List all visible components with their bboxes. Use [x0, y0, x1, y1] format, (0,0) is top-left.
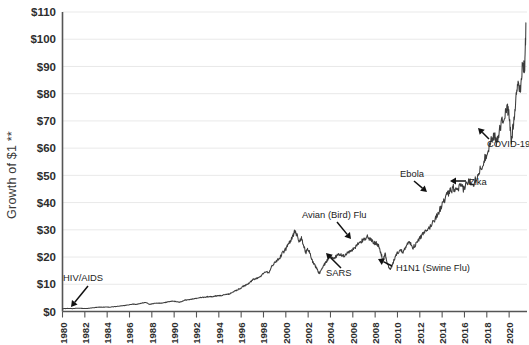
- x-tick-label: 1994: [214, 322, 225, 344]
- y-tick-label: $100: [30, 33, 56, 45]
- x-tick-label: 1988: [147, 322, 158, 344]
- x-tick-label: 1998: [258, 322, 269, 344]
- y-tick-label: $0: [43, 306, 56, 318]
- annotation-label: H1N1 (Swine Flu): [396, 262, 470, 273]
- y-axis-title-text: Growth of $1 **: [5, 131, 19, 219]
- annotation-label: HIV/AIDS: [63, 272, 103, 283]
- y-tick-label: $110: [31, 6, 56, 18]
- x-tick-label: 1992: [191, 323, 202, 344]
- x-tick-label: 1986: [124, 323, 135, 344]
- x-axis-tick-labels: 1980198219841986198819901992199419961998…: [58, 322, 516, 344]
- x-tick-label: 2000: [281, 323, 292, 344]
- growth-of-dollar-chart: Growth of $1 ** $0$10$20$30$40$50$60$70$…: [0, 0, 529, 345]
- y-tick-label: $80: [37, 88, 56, 100]
- x-tick-label: 2010: [392, 323, 403, 344]
- x-tick-label: 2008: [370, 322, 381, 344]
- annotation-label: Zika: [469, 176, 487, 187]
- annotation-label: Avian (Bird) Flu: [302, 209, 366, 220]
- x-tick-label: 1984: [102, 322, 113, 344]
- y-tick-label: $90: [37, 61, 56, 73]
- annotation-label: COVID-19: [487, 138, 529, 149]
- x-tick-label: 2014: [437, 322, 448, 344]
- y-tick-label: $40: [37, 197, 56, 209]
- x-tick-label: 2006: [348, 323, 359, 344]
- y-tick-label: $20: [37, 251, 56, 263]
- annotation-label: SARS: [326, 267, 352, 278]
- x-tick-label: 1996: [236, 323, 247, 344]
- annotation-label: Ebola: [400, 168, 425, 179]
- x-tick-label: 2020: [504, 323, 515, 344]
- y-axis-title: Growth of $1 **: [5, 131, 19, 219]
- y-tick-label: $10: [37, 278, 56, 290]
- x-tick-label: 1980: [58, 323, 69, 344]
- x-tick-label: 2004: [325, 322, 336, 344]
- x-tick-label: 1990: [169, 323, 180, 344]
- x-tick-label: 2018: [482, 322, 493, 344]
- y-tick-label: $70: [37, 115, 56, 127]
- x-tick-label: 2002: [303, 323, 314, 344]
- chart-svg: Growth of $1 ** $0$10$20$30$40$50$60$70$…: [0, 0, 529, 345]
- x-tick-label: 2012: [415, 323, 426, 344]
- x-tick-label: 1982: [80, 323, 91, 344]
- y-tick-label: $30: [37, 224, 56, 236]
- y-tick-label: $50: [37, 170, 56, 182]
- x-tick-label: 2016: [459, 323, 470, 344]
- y-tick-label: $60: [37, 142, 56, 154]
- chart-background: [0, 0, 529, 345]
